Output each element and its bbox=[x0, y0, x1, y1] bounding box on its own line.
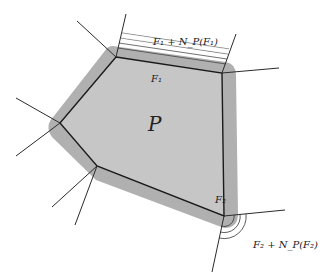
annotation-f1-normal: F₁ + N_P(F₁) bbox=[152, 36, 218, 48]
polytope-normal-fan-diagram: P F₁ F₂ F₁ + N_P(F₁) F₂ + N_P(F₂) bbox=[0, 0, 322, 279]
annotation-f2-normal: F₂ + N_P(F₂) bbox=[252, 239, 318, 251]
label-f2: F₂ bbox=[214, 194, 226, 205]
diagram-svg: P F₁ F₂ F₁ + N_P(F₁) F₂ + N_P(F₂) bbox=[0, 0, 322, 279]
ray-e2 bbox=[16, 98, 60, 123]
label-f1: F₁ bbox=[150, 73, 162, 84]
label-p: P bbox=[147, 112, 162, 136]
